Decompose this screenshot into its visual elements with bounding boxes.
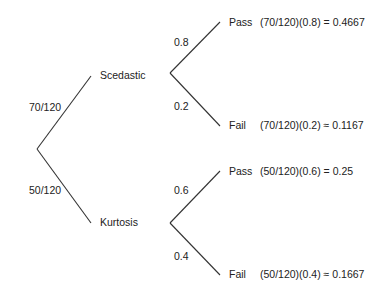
prob-scedastic: 70/120 <box>29 101 61 113</box>
result-kurtosis-fail: (50/120)(0.4) ≈ 0.1667 <box>260 268 364 280</box>
outcome-kurtosis-fail: Fail <box>229 268 246 280</box>
prob-kurtosis-pass: 0.6 <box>174 184 189 196</box>
tree-lines <box>0 0 386 307</box>
outcome-scedastic-fail: Fail <box>229 119 246 131</box>
result-scedastic-fail: (70/120)(0.2) ≈ 0.1167 <box>260 119 364 131</box>
node-scedastic: Scedastic <box>100 69 146 81</box>
outcome-kurtosis-pass: Pass <box>229 165 252 177</box>
result-scedastic-pass: (70/120)(0.8) = 0.4667 <box>260 16 365 28</box>
prob-scedastic-fail: 0.2 <box>174 100 189 112</box>
prob-kurtosis: 50/120 <box>29 184 61 196</box>
prob-kurtosis-fail: 0.4 <box>174 250 189 262</box>
result-kurtosis-pass: (50/120)(0.6) = 0.25 <box>260 165 353 177</box>
node-kurtosis: Kurtosis <box>100 216 138 228</box>
branch-kurtosis-pass <box>170 171 220 223</box>
branch-kurtosis-fail <box>170 223 220 275</box>
outcome-scedastic-pass: Pass <box>229 16 252 28</box>
prob-scedastic-pass: 0.8 <box>174 36 189 48</box>
